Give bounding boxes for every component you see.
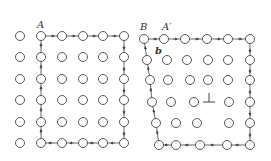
atom-circle bbox=[190, 98, 199, 107]
atom-circle bbox=[203, 35, 212, 44]
atom-circle bbox=[225, 119, 234, 128]
atom-circle bbox=[183, 56, 192, 65]
atom-circle bbox=[120, 53, 129, 62]
atom-circle bbox=[99, 139, 108, 148]
atom-circle bbox=[99, 53, 108, 62]
atom-circle bbox=[58, 53, 67, 62]
atom-circle bbox=[16, 118, 25, 127]
atom-circle bbox=[99, 96, 108, 105]
atom-circle bbox=[167, 98, 176, 107]
atom-circle bbox=[172, 119, 181, 128]
left-burgers-circuit bbox=[41, 36, 124, 143]
atom-circle bbox=[58, 96, 67, 105]
atom-circle bbox=[79, 53, 88, 62]
atom-circle bbox=[120, 139, 129, 148]
atom-circle bbox=[186, 76, 195, 85]
atom-circle bbox=[204, 56, 213, 65]
label-A-prime: A′ bbox=[162, 22, 172, 32]
atom-circle bbox=[58, 118, 67, 127]
atom-circle bbox=[246, 35, 255, 44]
atom-circle bbox=[143, 56, 152, 65]
atom-circle bbox=[140, 35, 149, 44]
atom-circle bbox=[120, 75, 129, 84]
atom-circle bbox=[37, 53, 46, 62]
atom-circle bbox=[224, 76, 233, 85]
atom-circle bbox=[172, 141, 181, 150]
atom-circle bbox=[16, 32, 25, 41]
atom-circle bbox=[164, 76, 173, 85]
atom-circle bbox=[224, 35, 233, 44]
atom-circle bbox=[37, 96, 46, 105]
atom-circle bbox=[99, 32, 108, 41]
atom-circle bbox=[99, 75, 108, 84]
atom-circle bbox=[58, 139, 67, 148]
atom-circle bbox=[37, 139, 46, 148]
atom-circle bbox=[152, 119, 161, 128]
atom-circle bbox=[16, 96, 25, 105]
atom-circle bbox=[224, 56, 233, 65]
atom-circle bbox=[58, 32, 67, 41]
atom-circle bbox=[246, 141, 255, 150]
atom-circle bbox=[246, 56, 255, 65]
atom-circle bbox=[99, 118, 108, 127]
atom-circle bbox=[146, 76, 155, 85]
atom-circle bbox=[160, 35, 169, 44]
edge-dislocation-symbol bbox=[203, 93, 215, 102]
atom-circle bbox=[246, 98, 255, 107]
atom-circle bbox=[223, 141, 232, 150]
label-B: B bbox=[140, 22, 147, 32]
atom-circle bbox=[37, 118, 46, 127]
atom-circle bbox=[120, 96, 129, 105]
arrow-icon bbox=[154, 111, 155, 114]
atom-circle bbox=[120, 118, 129, 127]
atom-circle bbox=[225, 98, 234, 107]
label-b: b bbox=[155, 46, 162, 56]
atom-circle bbox=[246, 76, 255, 85]
atom-circle bbox=[37, 75, 46, 84]
atom-circle bbox=[79, 32, 88, 41]
atom-circle bbox=[120, 32, 129, 41]
atom-circle bbox=[79, 75, 88, 84]
atom-circle bbox=[58, 75, 67, 84]
atom-circle bbox=[163, 56, 172, 65]
left-lattice-atoms bbox=[16, 32, 129, 148]
atom-circle bbox=[148, 98, 157, 107]
atom-circle bbox=[79, 139, 88, 148]
atom-circle bbox=[196, 141, 205, 150]
atom-circle bbox=[193, 119, 202, 128]
atom-circle bbox=[79, 96, 88, 105]
atom-circle bbox=[16, 75, 25, 84]
atom-circle bbox=[37, 32, 46, 41]
atom-circle bbox=[16, 139, 25, 148]
atom-circle bbox=[16, 53, 25, 62]
label-A: A bbox=[37, 20, 44, 30]
atom-circle bbox=[181, 35, 190, 44]
atom-circle bbox=[204, 76, 213, 85]
atom-circle bbox=[79, 118, 88, 127]
atom-circle bbox=[155, 141, 164, 150]
atom-circle bbox=[246, 119, 255, 128]
